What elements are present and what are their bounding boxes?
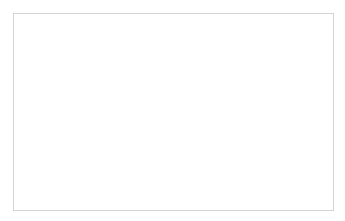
chart-frame	[13, 13, 334, 211]
